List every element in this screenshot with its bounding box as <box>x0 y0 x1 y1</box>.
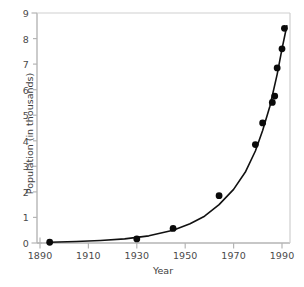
plot-area <box>0 0 304 287</box>
population-growth-chart: 9 8 7 6 5 4 3 2 1 0 1890 1910 1930 1950 … <box>0 0 304 287</box>
axes-frame <box>37 13 290 243</box>
xtick-label-1930: 1930 <box>117 250 157 261</box>
xtick-label-1950: 1950 <box>165 250 205 261</box>
data-point <box>170 225 177 232</box>
xtick-label-1970: 1970 <box>214 250 254 261</box>
data-point <box>46 239 53 246</box>
data-point <box>279 45 286 52</box>
x-axis-label: Year <box>123 265 203 276</box>
xtick-label-1910: 1910 <box>68 250 108 261</box>
data-point <box>271 93 278 100</box>
data-point <box>269 99 276 106</box>
xtick-label-1890: 1890 <box>20 250 60 261</box>
ytick-label-9: 9 <box>7 8 29 19</box>
data-point <box>252 141 259 148</box>
data-point <box>259 119 266 126</box>
trend-curve <box>50 26 287 242</box>
data-point <box>274 65 281 72</box>
data-point <box>281 25 288 32</box>
xtick-label-1990: 1990 <box>262 250 302 261</box>
ytick-label-8: 8 <box>7 34 29 45</box>
data-point <box>216 192 223 199</box>
data-points <box>46 25 288 246</box>
ytick-label-0: 0 <box>7 238 29 249</box>
data-point <box>133 236 140 243</box>
y-axis-label: Population (in thousands) <box>24 49 35 219</box>
